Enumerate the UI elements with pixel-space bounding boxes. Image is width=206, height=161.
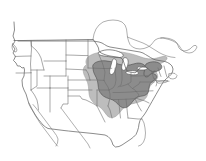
range-map-canvas (0, 0, 206, 161)
range-map-figure: North America species range map (0, 0, 206, 161)
